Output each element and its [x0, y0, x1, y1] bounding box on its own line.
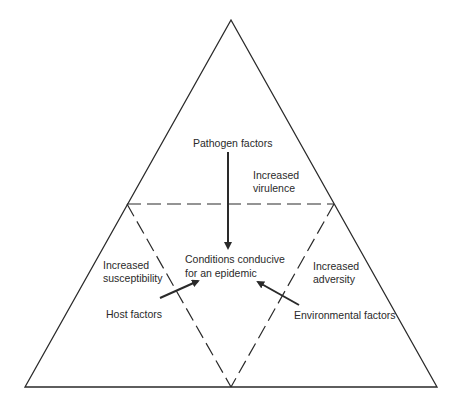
center-label-line1: Conditions conducive — [185, 252, 285, 266]
inner-dashed-triangle — [127, 204, 334, 387]
pathogen-factors-label: Pathogen factors — [193, 136, 272, 150]
increased-virulence-label-1: Increased — [253, 168, 299, 182]
disease-triangle-diagram — [0, 0, 461, 413]
increased-adversity-label-2: adversity — [313, 272, 355, 286]
environmental-factors-label: Environmental factors — [294, 308, 396, 322]
center-label-line2: for an epidemic — [185, 266, 257, 280]
increased-susceptibility-label-2: susceptibility — [103, 271, 163, 285]
increased-susceptibility-label-1: Increased — [103, 258, 149, 272]
host-factors-label: Host factors — [106, 307, 162, 321]
increased-adversity-label-1: Increased — [313, 259, 359, 273]
increased-virulence-label-2: virulence — [253, 181, 295, 195]
